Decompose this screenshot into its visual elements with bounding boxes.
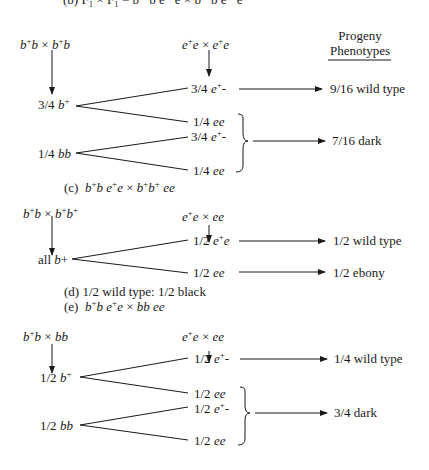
e-b-class-1: 1/2 b+ <box>40 371 71 384</box>
e-class-2: 1/4 ee <box>193 115 224 128</box>
cross-e-locus: e+e × e+e <box>182 38 229 51</box>
e-class-1: 3/4 e+- <box>191 82 226 95</box>
e-e-class-4: 1/2 ee <box>194 434 225 447</box>
label-c: (c) b+b e+e × b+b+ ee <box>64 181 175 194</box>
header-line1: Progeny <box>325 28 395 43</box>
phenotype-dark: 7/16 dark <box>332 134 381 147</box>
cross-e-b-locus: b+b × bb <box>23 330 68 343</box>
cross-c-e-locus: e+e × ee <box>182 210 224 223</box>
e-class-3: 3/4 e+- <box>191 130 226 143</box>
b-class-2: 1/4 bb <box>38 147 71 160</box>
header-line2: Phenotypes <box>325 43 395 58</box>
e-phenotype-wild: 1/4 wild type <box>334 352 403 365</box>
label-d: (d) 1/2 wild type: 1/2 black <box>64 285 206 298</box>
c-e-class-2: 1/2 ee <box>193 266 224 279</box>
b-class-1: 3/4 b+ <box>38 98 69 111</box>
e-e-class-3: 1/2 e+- <box>194 402 229 415</box>
c-b-class-1: all b+ <box>38 253 68 266</box>
c-phenotype-wild: 1/2 wild type <box>333 234 402 247</box>
cross-e-e-locus: e+e × ee <box>182 330 224 343</box>
c-e-class-1: 1/2 e+e <box>193 234 230 247</box>
e-e-class-2: 1/2 ee <box>194 387 225 400</box>
e-phenotype-dark: 3/4 dark <box>334 406 377 419</box>
caption-b: (b) F₁ × F₁ = b⁺ b e⁺ e × b⁺ b e⁺ e <box>63 0 242 6</box>
e-b-class-2: 1/2 bb <box>40 419 73 432</box>
phenotype-wild-type: 9/16 wild type <box>330 82 405 95</box>
label-e: (e) b+b e+e × bb ee <box>64 300 165 313</box>
cross-c-b-locus: b+b × b+b+ <box>23 207 78 220</box>
e-e-class-1: 1/2 e+- <box>194 352 229 365</box>
e-class-4: 1/4 ee <box>193 164 224 177</box>
c-phenotype-ebony: 1/2 ebony <box>333 266 385 279</box>
cross-b-locus: b+b × b+b <box>20 38 70 51</box>
progeny-phenotypes-header: Progeny Phenotypes <box>325 28 395 58</box>
